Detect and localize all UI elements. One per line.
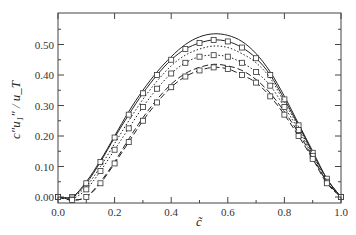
data-point-marker	[155, 100, 160, 105]
data-point-marker	[254, 56, 259, 61]
data-point-marker	[324, 181, 329, 186]
y-tick-label: 0.30	[35, 100, 55, 112]
y-tick-label: 0.10	[35, 161, 55, 173]
data-point-marker	[126, 140, 131, 145]
data-point-marker	[70, 198, 75, 203]
data-point-marker	[84, 187, 89, 192]
chart: 0.00.20.40.60.81.0 0.000.100.200.300.400…	[0, 0, 356, 235]
data-point-marker	[183, 47, 188, 52]
data-point-marker	[183, 74, 188, 79]
data-point-marker	[112, 161, 117, 166]
y-tick-label: 0.00	[35, 191, 55, 203]
data-point-marker	[155, 73, 160, 78]
data-point-marker	[197, 40, 202, 45]
plot-area	[56, 34, 344, 203]
data-point-marker	[197, 54, 202, 59]
y-tick-label: 0.40	[35, 69, 55, 81]
x-tick-label: 0.8	[278, 206, 292, 218]
data-point-marker	[211, 65, 216, 70]
data-point-marker	[239, 60, 244, 65]
data-point-marker	[239, 45, 244, 50]
data-point-marker	[140, 118, 145, 123]
data-point-marker	[140, 91, 145, 96]
data-point-marker	[126, 126, 131, 131]
x-tick-label: 0.6	[221, 206, 235, 218]
x-tick-label: 1.0	[334, 206, 348, 218]
data-point-marker	[310, 156, 315, 161]
data-point-marker	[225, 39, 230, 44]
data-point-marker	[140, 105, 145, 110]
data-point-marker	[98, 169, 103, 174]
x-tick-label: 0.4	[164, 206, 178, 218]
data-point-marker	[84, 195, 89, 200]
series-line-solid-squares	[58, 40, 341, 198]
x-tick-label: 0.2	[108, 206, 122, 218]
data-point-marker	[254, 69, 259, 74]
data-point-marker	[211, 37, 216, 42]
data-point-marker	[225, 66, 230, 71]
data-point-marker	[98, 181, 103, 186]
y-tick-label: 0.20	[35, 130, 55, 142]
data-point-marker	[268, 94, 273, 99]
data-point-marker	[268, 83, 273, 88]
data-point-marker	[112, 135, 117, 140]
data-point-marker	[183, 60, 188, 65]
data-point-marker	[254, 80, 259, 85]
data-point-marker	[126, 112, 131, 117]
y-tick-label: 0.50	[35, 39, 55, 51]
data-point-marker	[282, 105, 287, 110]
data-point-marker	[112, 147, 117, 152]
data-point-marker	[169, 85, 174, 90]
data-point-marker	[84, 181, 89, 186]
data-point-marker	[197, 68, 202, 73]
x-tick-label: 0.0	[51, 206, 65, 218]
data-point-marker	[169, 57, 174, 62]
data-point-marker	[282, 112, 287, 117]
x-axis-label: c̃	[196, 214, 203, 229]
y-axis-label: c″u₁″ / u_T	[8, 80, 23, 139]
data-point-marker	[296, 134, 301, 139]
data-point-marker	[225, 54, 230, 59]
data-point-marker	[239, 73, 244, 78]
data-point-marker	[169, 71, 174, 76]
data-point-marker	[155, 86, 160, 91]
data-point-marker	[211, 53, 216, 58]
